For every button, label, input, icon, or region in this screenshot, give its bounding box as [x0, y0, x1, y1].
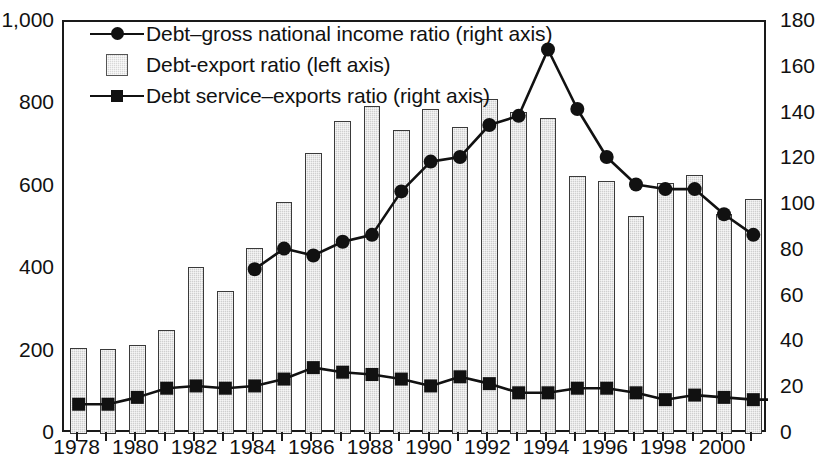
bar	[510, 112, 526, 434]
x-axis-tick-mark	[105, 432, 107, 441]
circle-marker	[629, 178, 643, 192]
bar	[364, 106, 380, 434]
circle-marker	[600, 150, 614, 164]
bar	[305, 153, 321, 434]
right-axis-tick-label: 120	[780, 146, 815, 167]
legend-item-debt-gni: Debt–gross national income ratio (right …	[88, 18, 608, 49]
bar	[745, 199, 761, 434]
left-axis-tick-label: 200	[19, 339, 54, 360]
left-axis-tick-label: 1,000	[1, 9, 54, 30]
bar	[598, 181, 614, 434]
bar	[276, 202, 292, 434]
bar	[129, 345, 145, 434]
bar	[158, 330, 174, 434]
bar	[569, 176, 585, 434]
x-axis-tick-mark	[457, 432, 459, 441]
bar	[70, 348, 86, 434]
bar	[334, 121, 350, 434]
legend-label: Debt service–exports ratio (right axis)	[146, 84, 490, 108]
x-axis-tick-mark	[164, 432, 166, 441]
x-axis-tick-mark	[398, 432, 400, 441]
bar	[657, 183, 673, 434]
x-axis-tick-label: 1986	[288, 436, 335, 457]
x-axis-tick-mark	[516, 432, 518, 441]
legend-label: Debt–gross national income ratio (right …	[146, 22, 552, 46]
x-axis-tick-mark	[633, 432, 635, 441]
bar	[628, 216, 644, 434]
left-axis-tick-label: 600	[19, 174, 54, 195]
x-axis-tick-mark	[750, 432, 752, 441]
bar	[686, 175, 702, 434]
bar	[100, 349, 116, 434]
x-axis-tick-label: 1992	[464, 436, 511, 457]
x-axis-tick-label: 1994	[523, 436, 570, 457]
left-axis-tick-label: 0	[42, 421, 54, 442]
x-axis-tick-label: 1988	[347, 436, 394, 457]
x-axis-tick-label: 1980	[112, 436, 159, 457]
bar	[481, 99, 497, 434]
bar	[217, 291, 233, 434]
bar	[393, 130, 409, 434]
bar	[246, 248, 262, 434]
x-axis-tick-mark	[340, 432, 342, 441]
right-axis-tick-label: 180	[780, 9, 815, 30]
bar	[452, 127, 468, 434]
line-square-icon	[88, 83, 146, 109]
x-axis-tick-label: 1996	[581, 436, 628, 457]
x-axis-tick-mark	[222, 432, 224, 441]
left-axis-tick-label: 800	[19, 91, 54, 112]
legend-item-debt-service: Debt service–exports ratio (right axis)	[88, 80, 608, 111]
right-axis-tick-label: 80	[780, 238, 803, 259]
chart-figure: 02004006008001,000 020406080100120140160…	[0, 0, 832, 467]
right-axis-tick-label: 0	[780, 421, 792, 442]
line-circle-icon	[88, 21, 146, 47]
right-axis-tick-label: 60	[780, 284, 803, 305]
x-axis-tick-mark	[692, 432, 694, 441]
bar	[422, 109, 438, 434]
right-axis-tick-label: 160	[780, 55, 815, 76]
legend-item-debt-export: Debt-export ratio (left axis)	[88, 49, 608, 80]
x-axis-tick-label: 1998	[640, 436, 687, 457]
legend-label: Debt-export ratio (left axis)	[146, 53, 391, 77]
left-axis-tick-label: 400	[19, 256, 54, 277]
bar	[540, 118, 556, 434]
x-axis-tick-mark	[281, 432, 283, 441]
x-axis-tick-label: 1984	[229, 436, 276, 457]
chart-legend: Debt–gross national income ratio (right …	[88, 18, 608, 111]
x-axis-tick-label: 1990	[405, 436, 452, 457]
right-axis-tick-label: 20	[780, 375, 803, 396]
right-axis-tick-label: 100	[780, 192, 815, 213]
bar	[716, 214, 732, 434]
x-axis-tick-mark	[574, 432, 576, 441]
x-axis-tick-label: 1982	[171, 436, 218, 457]
x-axis-tick-label: 2000	[699, 436, 746, 457]
x-axis-tick-label: 1978	[53, 436, 100, 457]
right-axis-tick-label: 140	[780, 101, 815, 122]
bar	[188, 267, 204, 434]
right-axis-tick-label: 40	[780, 329, 803, 350]
bar-swatch-icon	[88, 52, 146, 78]
